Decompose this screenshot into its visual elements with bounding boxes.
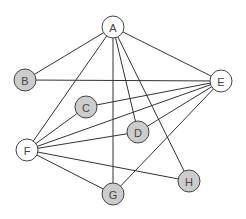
edge-a-b	[25, 27, 113, 80]
node-label: D	[134, 127, 142, 139]
nodes-layer: ABCDEFGH	[14, 16, 232, 205]
node-g: G	[102, 183, 124, 205]
edge-a-f	[27, 27, 113, 150]
node-label: C	[82, 102, 90, 114]
node-label: E	[217, 76, 224, 88]
edge-b-e	[25, 80, 221, 81]
node-f: F	[16, 139, 38, 161]
node-label: G	[109, 189, 118, 201]
edge-d-f	[27, 132, 138, 150]
graph-diagram: ABCDEFGH	[0, 0, 246, 219]
edge-a-h	[113, 27, 189, 181]
node-label: F	[24, 145, 31, 157]
edge-e-f	[27, 81, 221, 150]
node-a: A	[102, 16, 124, 38]
node-label: B	[21, 75, 28, 87]
node-e: E	[210, 70, 232, 92]
node-c: C	[75, 96, 97, 118]
node-b: B	[14, 69, 36, 91]
node-h: H	[178, 170, 200, 192]
edges-layer	[25, 27, 221, 194]
edge-f-h	[27, 150, 189, 181]
edge-a-d	[113, 27, 138, 132]
node-d: D	[127, 121, 149, 143]
node-label: A	[109, 22, 117, 34]
edge-f-g	[27, 150, 113, 194]
node-label: H	[185, 176, 193, 188]
edge-a-e	[113, 27, 221, 81]
